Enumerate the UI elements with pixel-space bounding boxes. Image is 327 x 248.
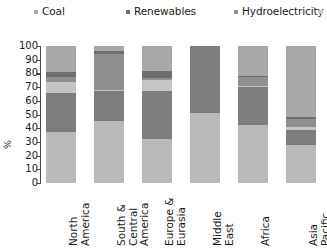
bar-segment [286, 119, 316, 127]
chart-plot-area: % 0102030405060708090100 North AmericaSo… [0, 44, 327, 248]
bar-segment [238, 46, 268, 76]
y-tick-label: 0 [12, 179, 38, 187]
y-tick-label: 10 [12, 165, 38, 173]
legend-item-nuclear-energy: Nuclear energy [319, 5, 327, 18]
stacked-bar-group [41, 46, 325, 183]
y-tick-label: 80 [12, 69, 38, 77]
x-tick-label: Asia Pacific [308, 184, 327, 246]
y-tick-label: 100 [12, 42, 38, 50]
bar-segment [238, 125, 268, 183]
chart-legend: Coal Renewables Hydroelectricity Nuclear… [34, 5, 319, 18]
legend-item-coal: Coal [34, 5, 126, 18]
x-tick-label: North America [68, 184, 91, 246]
stacked-bar [190, 46, 220, 183]
y-tick-label: 40 [12, 124, 38, 132]
bar-segment [142, 139, 172, 183]
bar-segment [286, 130, 316, 145]
legend-label-coal: Coal [42, 5, 65, 18]
bar-segment [46, 132, 76, 183]
bar-segment [94, 91, 124, 121]
bar-segment [238, 77, 268, 85]
legend-label-renewables: Renewables [134, 5, 196, 18]
bar-segment [190, 113, 220, 183]
legend-swatch-coal [34, 10, 38, 14]
legend-swatch-renewables [126, 10, 130, 14]
y-tick-label: 20 [12, 152, 38, 160]
bar-segment [46, 93, 76, 133]
y-tick-label: 30 [12, 138, 38, 146]
legend-label-hydroelectricity: Hydroelectricity [242, 5, 324, 18]
bar-segment [46, 82, 76, 93]
legend-item-hydroelectricity: Hydroelectricity [234, 5, 319, 18]
bar-segment [286, 46, 316, 117]
x-tick-label: South & Central America [116, 184, 151, 246]
stacked-bar [286, 46, 316, 183]
bar-segment [142, 46, 172, 71]
bar-segment [94, 54, 124, 90]
x-axis-tick-labels: North AmericaSouth & Central AmericaEuro… [41, 186, 325, 248]
y-tick-label: 60 [12, 97, 38, 105]
legend-swatch-hydroelectricity [234, 10, 238, 14]
legend-swatch-nuclear-energy [319, 10, 323, 14]
y-axis-tick-labels: 0102030405060708090100 [12, 46, 38, 182]
y-tick-label: 90 [12, 56, 38, 64]
bar-segment [238, 87, 268, 125]
y-tick-label: 50 [12, 111, 38, 119]
x-tick-label: Africa [260, 184, 272, 246]
x-tick-label: Middle East [212, 184, 235, 246]
legend-item-renewables: Renewables [126, 5, 234, 18]
bar-segment [142, 80, 172, 91]
stacked-bar [94, 46, 124, 183]
bar-segment [190, 46, 220, 113]
stacked-bar [142, 46, 172, 183]
bar-segment [94, 121, 124, 183]
bar-segment [46, 46, 76, 72]
x-tick-label: Europe & Eurasia [164, 184, 187, 246]
stacked-bar [46, 46, 76, 183]
bar-segment [142, 71, 172, 78]
stacked-bar [238, 46, 268, 183]
bar-segment [142, 91, 172, 139]
bar-segment [286, 145, 316, 183]
y-tick-label: 70 [12, 83, 38, 91]
y-tick-mark [36, 183, 41, 184]
